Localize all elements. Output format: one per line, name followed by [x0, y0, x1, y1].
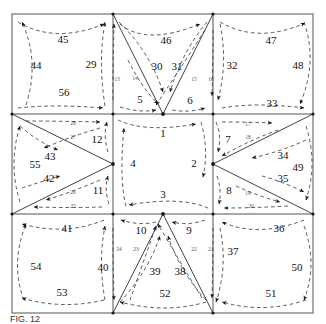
arrow-8 — [217, 176, 220, 204]
label-8: 8 — [226, 184, 232, 196]
arrow-55 — [14, 126, 20, 202]
arrow-12 — [105, 122, 108, 152]
label-32: 32 — [227, 59, 238, 71]
label-13: 13 — [114, 76, 120, 82]
patent-figure-svg — [0, 0, 326, 324]
label-51: 51 — [266, 287, 277, 299]
label-27: 27 — [70, 134, 76, 140]
label-9: 9 — [186, 224, 192, 236]
arrow-37 — [216, 228, 223, 302]
label-54: 54 — [31, 260, 42, 272]
label-34: 34 — [278, 149, 289, 161]
label-12: 12 — [92, 133, 103, 145]
label-40: 40 — [98, 261, 109, 273]
label-55: 55 — [30, 158, 41, 170]
label-50: 50 — [292, 261, 303, 273]
label-56: 56 — [59, 86, 70, 98]
arrow-43 — [20, 126, 58, 150]
arrow-20 — [224, 206, 288, 208]
label-38: 38 — [175, 265, 186, 277]
arrow-54 — [17, 224, 26, 300]
label-42: 42 — [44, 172, 55, 184]
hub-dots — [10, 12, 314, 314]
arrow-49 — [306, 126, 312, 200]
dashed-arrows — [14, 22, 312, 308]
label-11: 11 — [93, 184, 104, 196]
label-37: 37 — [228, 245, 239, 257]
label-21: 21 — [208, 246, 214, 252]
label-45: 45 — [58, 33, 69, 45]
arrow-52 — [120, 302, 206, 308]
label-52: 52 — [160, 287, 171, 299]
grid-frame — [12, 14, 313, 313]
label-19: 19 — [245, 190, 251, 196]
label-24: 24 — [116, 246, 122, 252]
label-48: 48 — [293, 59, 304, 71]
label-16: 16 — [208, 76, 214, 82]
label-20: 20 — [248, 203, 254, 209]
figure-canvas: 1234567891011122930313233343536373839404… — [0, 0, 326, 324]
label-15: 15 — [191, 76, 197, 82]
arrow-45 — [18, 22, 104, 34]
arrow-56 — [18, 106, 103, 108]
arrow-31 — [170, 22, 207, 92]
label-29: 29 — [86, 58, 97, 70]
label-39: 39 — [150, 265, 161, 277]
label-6: 6 — [187, 94, 193, 106]
arrow-32 — [218, 24, 224, 100]
label-25: 25 — [70, 203, 76, 209]
label-3: 3 — [160, 188, 166, 200]
arrow-51 — [222, 300, 306, 308]
label-26: 26 — [70, 189, 76, 195]
arrow-2 — [201, 122, 206, 177]
label-2: 2 — [191, 157, 197, 169]
arrow-50 — [304, 226, 311, 300]
label-36: 36 — [274, 222, 285, 234]
arrow-47 — [220, 22, 305, 33]
label-43: 43 — [45, 150, 56, 162]
label-14: 14 — [132, 75, 138, 81]
label-22: 22 — [191, 246, 197, 252]
arrow-36 — [222, 220, 304, 230]
arrow-6 — [172, 108, 205, 111]
arrow-53 — [22, 298, 104, 305]
arrow-33 — [222, 105, 304, 108]
label-1: 1 — [160, 127, 166, 139]
arrow-11 — [106, 176, 109, 204]
label-33: 33 — [267, 97, 278, 109]
label-4: 4 — [130, 157, 136, 169]
label-10: 10 — [136, 224, 147, 236]
label-46: 46 — [161, 34, 172, 46]
arrow-28 — [26, 121, 100, 122]
arrow-3 — [129, 201, 208, 208]
label-41: 41 — [62, 222, 73, 234]
arrow-29 — [102, 22, 106, 106]
arrow-5 — [120, 107, 156, 111]
label-31: 31 — [172, 60, 183, 72]
arrow-23 — [130, 226, 156, 300]
label-44: 44 — [31, 59, 42, 71]
arrow-1 — [118, 120, 196, 128]
arrow-30 — [119, 22, 163, 92]
label-53: 53 — [57, 286, 68, 298]
figure-caption: FIG. 12 — [10, 314, 40, 324]
label-23: 23 — [133, 246, 139, 252]
label-49: 49 — [293, 161, 304, 173]
label-5: 5 — [137, 93, 143, 105]
label-47: 47 — [266, 34, 277, 46]
arrow-25 — [34, 207, 102, 208]
label-18: 18 — [245, 134, 251, 140]
label-28: 28 — [70, 120, 76, 126]
label-17: 17 — [245, 121, 251, 127]
label-7: 7 — [225, 133, 231, 145]
arrow-7 — [216, 122, 220, 152]
label-35: 35 — [278, 172, 289, 184]
label-30: 30 — [152, 60, 163, 72]
arrow-4 — [122, 128, 126, 206]
